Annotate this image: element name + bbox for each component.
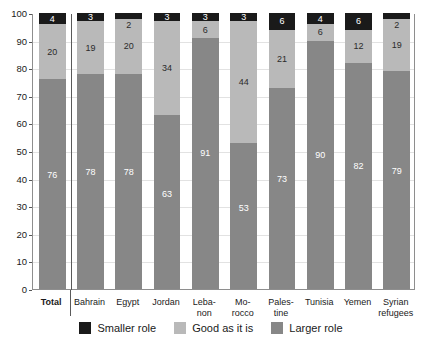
x-axis-label-line1: Syrian [373,297,419,308]
bar-group[interactable]: 53443 [230,13,257,289]
bar-value-smaller-role: 3 [230,12,257,22]
legend-item[interactable]: Good as it is [174,322,253,334]
y-tick-label: 80 [0,64,27,73]
y-tick-label: 100 [0,9,27,18]
bar-segment-larger-role[interactable] [345,63,372,289]
bar-group[interactable]: 63343 [154,13,181,289]
legend-swatch [79,322,91,334]
bar-value-good-as-it-is: 34 [154,63,181,73]
plot-area: 7620478193782026334391635344373216906482… [32,14,415,290]
bar-value-smaller-role: 4 [39,14,66,24]
legend-item[interactable]: Smaller role [79,322,156,334]
bar-segment-larger-role[interactable] [269,88,296,289]
bar-group[interactable]: 76204 [39,13,66,289]
bar-value-smaller-role: 6 [269,16,296,26]
bar-value-larger-role: 53 [230,203,257,213]
bar-value-larger-role: 73 [269,174,296,184]
bar-value-smaller-role: 3 [192,12,219,22]
bar-group[interactable]: 78202 [115,13,142,289]
bar-value-good-as-it-is: 21 [269,54,296,64]
bars-layer: 7620478193782026334391635344373216906482… [33,14,414,289]
bar-segment-larger-role[interactable] [383,71,410,289]
x-axis-label-line2: refugees [373,308,419,319]
legend-label: Good as it is [192,322,253,334]
bar-group[interactable]: 79192 [383,13,410,289]
legend-swatch [271,322,283,334]
bar-group[interactable]: 9163 [192,13,219,289]
bar-value-larger-role: 76 [39,170,66,180]
bar-value-good-as-it-is: 12 [345,41,372,51]
bar-value-good-as-it-is: 20 [115,41,142,51]
y-tick-label: 0 [0,285,27,294]
legend: Smaller roleGood as it isLarger role [0,322,422,334]
bar-segment-smaller-role[interactable] [383,13,410,19]
bar-group[interactable]: 73216 [269,13,296,289]
legend-label: Larger role [289,322,342,334]
bar-value-good-as-it-is: 44 [230,77,257,87]
bar-value-good-as-it-is: 19 [77,43,104,53]
y-tick-label: 70 [0,92,27,101]
legend-item[interactable]: Larger role [271,322,342,334]
bar-value-smaller-role: 2 [383,20,410,30]
bar-value-larger-role: 63 [154,189,181,199]
y-tick-label: 10 [0,257,27,266]
y-tick-label: 30 [0,202,27,211]
bar-value-good-as-it-is: 6 [307,27,334,37]
bar-value-larger-role: 78 [115,167,142,177]
stacked-bar-chart: 1009080706050403020100 76204781937820263… [0,0,422,346]
bar-value-smaller-role: 2 [115,20,142,30]
bar-value-larger-role: 82 [345,161,372,171]
bar-segment-larger-role[interactable] [230,143,257,289]
legend-label: Smaller role [97,322,156,334]
bar-value-larger-role: 78 [77,167,104,177]
bar-value-larger-role: 91 [192,148,219,158]
bar-value-larger-role: 79 [383,166,410,176]
y-tick-label: 90 [0,37,27,46]
y-tick-label: 40 [0,175,27,184]
x-axis-label-line2: tine [258,308,304,319]
total-separator-line [71,14,72,290]
x-axis-label: Syrianrefugees [373,297,419,318]
legend-swatch [174,322,186,334]
y-tick-mark [29,290,32,291]
bar-group[interactable]: 78193 [77,13,104,289]
bar-value-good-as-it-is: 6 [192,25,219,35]
bar-segment-smaller-role[interactable] [115,13,142,19]
bar-value-smaller-role: 4 [307,14,334,24]
bar-value-good-as-it-is: 20 [39,47,66,57]
bar-segment-larger-role[interactable] [192,38,219,289]
bar-segment-larger-role[interactable] [39,79,66,289]
bar-value-smaller-role: 6 [345,16,372,26]
bar-group[interactable]: 9064 [307,13,334,289]
bar-segment-larger-role[interactable] [307,41,334,289]
bar-value-smaller-role: 3 [77,12,104,22]
bar-value-good-as-it-is: 19 [383,40,410,50]
y-tick-label: 20 [0,230,27,239]
bar-segment-larger-role[interactable] [115,74,142,289]
bar-value-larger-role: 90 [307,150,334,160]
bar-group[interactable]: 82126 [345,13,372,289]
bar-value-smaller-role: 3 [154,12,181,22]
y-tick-label: 50 [0,147,27,156]
bar-segment-larger-role[interactable] [77,74,104,289]
bar-segment-larger-role[interactable] [154,115,181,289]
y-tick-label: 60 [0,119,27,128]
